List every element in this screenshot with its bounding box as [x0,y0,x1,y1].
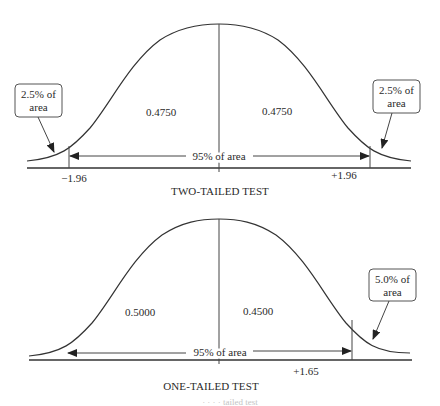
diagram-title: TWO-TAILED TEST [171,185,269,197]
svg-text:area: area [383,286,401,298]
span-label: 95% of area [193,346,246,358]
faint-footer-text: · · · · tailed test [202,397,258,406]
svg-text:2.5% of: 2.5% of [21,88,56,100]
cutoff-right-label: +1.96 [331,169,357,181]
callout-right-tail: 2.5% of area [373,80,420,148]
diagram-title: ONE-TAILED TEST [163,380,259,392]
svg-text:area: area [387,97,405,109]
callout-right-tail: 5.0% of area [369,269,416,339]
svg-text:2.5% of: 2.5% of [379,84,414,96]
normal-distribution-figure: 95% of area 0.4750 0.4750 −1.96 +1.96 2.… [0,0,440,406]
cutoff-left-label: −1.96 [61,172,87,184]
cutoff-right-label: +1.65 [293,365,319,377]
callout-left-tail: 2.5% of area [15,84,62,152]
svg-text:5.0% of: 5.0% of [375,273,410,285]
region-left-label: 0.4750 [146,106,177,118]
region-left-label: 0.5000 [125,306,156,318]
region-right-label: 0.4500 [243,305,274,317]
two-tailed-diagram: 95% of area 0.4750 0.4750 −1.96 +1.96 2.… [15,24,420,197]
one-tailed-diagram: 95% of area 0.5000 0.4500 +1.65 5.0% of … [29,219,416,392]
svg-text:area: area [29,101,47,113]
region-right-label: 0.4750 [262,105,293,117]
span-label: 95% of area [192,150,245,162]
